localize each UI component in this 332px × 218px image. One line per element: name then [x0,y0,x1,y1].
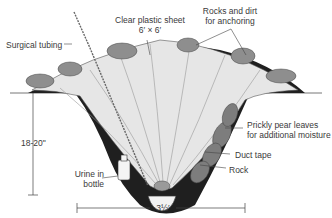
label-width: 3½′ [152,203,174,213]
label-depth: 18-20" [21,138,46,148]
label-rock: Rock [229,165,248,175]
label-surgical-tubing: Surgical tubing [6,40,62,50]
label-plastic-sheet: Clear plastic sheet 6′ × 6′ [112,15,188,35]
urine-bottle [118,160,130,180]
label-duct-tape: Duct tape [235,150,271,160]
label-prickly-pear: Prickly pear leaves for additional moist… [247,120,331,140]
label-urine-bottle: Urine in bottle [64,169,104,189]
center-rock [154,181,170,191]
label-rocks-and-dirt: Rocks and dirt for anchoring [200,6,260,26]
